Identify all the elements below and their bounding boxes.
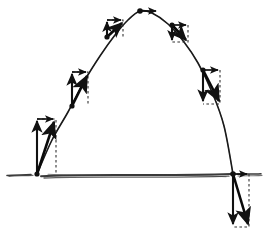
resultant-velocity-arrow-near-apex-right xyxy=(172,25,186,40)
projectile-motion-figure: Projectile motion velocity vector decomp… xyxy=(0,0,267,233)
trajectory-point-apex xyxy=(137,8,143,14)
vector-group-rising xyxy=(69,72,88,109)
resultant-velocity-arrow-landing xyxy=(233,174,248,224)
vector-group-landing xyxy=(230,171,249,227)
trajectory-point-rising xyxy=(69,103,74,108)
ground-line xyxy=(7,174,262,178)
trajectory-point-falling xyxy=(200,67,205,72)
trajectory-point-landing xyxy=(230,171,236,177)
resultant-velocity-arrow-rising xyxy=(72,76,87,106)
vector-group-launch xyxy=(34,119,56,177)
projectile-diagram-canvas xyxy=(0,0,267,233)
resultant-velocity-arrow-falling xyxy=(203,70,219,101)
vector-group-falling xyxy=(200,67,220,104)
vector-group-near-apex-right xyxy=(169,22,188,42)
trajectory-point-near-apex-left xyxy=(104,34,109,39)
trajectory-point-near-apex-right xyxy=(169,22,174,27)
resultant-velocity-arrow-launch xyxy=(37,122,54,174)
trajectory-point-launch xyxy=(34,171,39,176)
